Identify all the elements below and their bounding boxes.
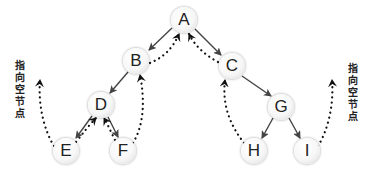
tree-node-f: F (110, 138, 136, 164)
label-char: 点 (346, 111, 360, 123)
tree-node-e: E (53, 138, 79, 164)
edge-d-e (76, 116, 92, 138)
label-char: 点 (13, 108, 27, 120)
label-char: 节 (346, 99, 360, 111)
label-char: 向 (346, 75, 360, 87)
tree-node-g: G (268, 94, 294, 120)
edge-a-c (195, 29, 221, 55)
label-char: 空 (346, 87, 360, 99)
thread-i-null (318, 80, 332, 146)
right-null-pointer-label: 指 向 空 节 点 (346, 63, 360, 123)
thread-f-b (133, 75, 143, 143)
tree-edges (76, 28, 300, 138)
tree-node-i: I (294, 138, 320, 164)
tree-node-c: C (219, 53, 245, 79)
label-char: 指 (13, 60, 27, 72)
label-char: 空 (13, 84, 27, 96)
tree-node-d: D (88, 92, 114, 118)
edge-a-b (149, 28, 172, 50)
thread-e-null (40, 80, 54, 146)
label-char: 指 (346, 63, 360, 75)
label-char: 节 (13, 96, 27, 108)
tree-node-b: B (123, 48, 149, 74)
left-null-pointer-label: 指 向 空 节 点 (13, 60, 27, 120)
tree-node-h: H (241, 138, 267, 164)
thread-e-d (76, 118, 96, 142)
thread-links (40, 34, 333, 146)
tree-node-a: A (171, 7, 197, 33)
edge-b-d (110, 72, 128, 93)
thread-b-a (150, 34, 179, 63)
label-char: 向 (13, 72, 27, 84)
edge-g-h (262, 118, 273, 138)
edge-d-f (108, 117, 118, 137)
edge-g-i (289, 118, 300, 138)
thread-h-c (224, 80, 244, 143)
edge-c-g (242, 76, 271, 96)
